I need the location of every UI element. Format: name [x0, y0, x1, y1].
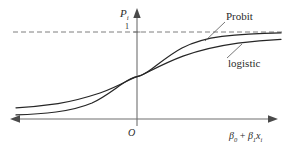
x-axis-left-arrow-icon [10, 115, 20, 122]
probit-annotation-label: Probit [226, 10, 253, 22]
origin-label: O [128, 127, 135, 138]
x-axis-label: β0 + β1xi [228, 130, 263, 143]
figure-canvas: Pi 1 O β0 + β1xi Probit logistic [0, 0, 293, 144]
curve-logistic [16, 39, 281, 108]
logistic-leader-line [227, 44, 242, 58]
x-axis-right-arrow-icon [268, 115, 278, 122]
y-tick-label-one: 1 [125, 22, 129, 31]
y-axis-label: Pi [119, 7, 129, 22]
logistic-annotation-label: logistic [228, 57, 261, 69]
probit-logistic-figure: Pi 1 O β0 + β1xi Probit logistic [0, 0, 293, 144]
probit-leader-line [205, 22, 225, 41]
y-axis-up-arrow-icon [133, 8, 140, 18]
